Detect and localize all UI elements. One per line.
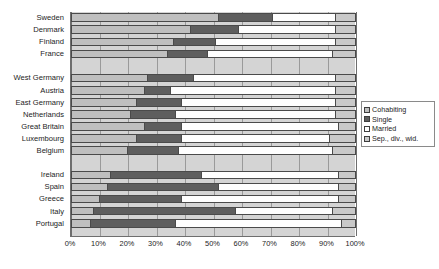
stacked-bar[interactable] bbox=[71, 207, 356, 216]
category-label: Portugal bbox=[0, 218, 68, 230]
bar-segment[interactable] bbox=[176, 110, 336, 119]
legend-item[interactable]: Single bbox=[364, 115, 431, 125]
bar-segment[interactable] bbox=[182, 122, 339, 131]
bar-segment[interactable] bbox=[182, 195, 339, 204]
stacked-bar[interactable] bbox=[71, 171, 356, 180]
bar-segment[interactable] bbox=[174, 38, 217, 47]
bar-segment[interactable] bbox=[236, 207, 333, 216]
stacked-bar[interactable] bbox=[71, 13, 356, 22]
bar-segment[interactable] bbox=[182, 134, 330, 143]
stacked-bar[interactable] bbox=[71, 110, 356, 119]
bar-segment[interactable] bbox=[71, 146, 128, 155]
stacked-bar[interactable] bbox=[71, 134, 356, 143]
stacked-bar[interactable] bbox=[71, 86, 356, 95]
bar-segment[interactable] bbox=[71, 110, 131, 119]
bar-segment[interactable] bbox=[336, 38, 356, 47]
bar-segment[interactable] bbox=[91, 219, 177, 228]
category-label: Sweden bbox=[0, 12, 68, 24]
bar-segment[interactable] bbox=[339, 195, 356, 204]
category-label: France bbox=[0, 48, 68, 60]
bar-segment[interactable] bbox=[71, 134, 137, 143]
bar-segment[interactable] bbox=[336, 25, 356, 34]
bar-segment[interactable] bbox=[330, 134, 356, 143]
bar-segment[interactable] bbox=[339, 171, 356, 180]
bar-segment[interactable] bbox=[94, 207, 237, 216]
bar-segment[interactable] bbox=[131, 110, 177, 119]
bar-segment[interactable] bbox=[71, 98, 137, 107]
category-label: Ireland bbox=[0, 169, 68, 181]
bar-segment[interactable] bbox=[71, 38, 174, 47]
stacked-bar[interactable] bbox=[71, 50, 356, 59]
bar-segment[interactable] bbox=[137, 134, 183, 143]
bar-segment[interactable] bbox=[171, 86, 336, 95]
bar-segment[interactable] bbox=[342, 219, 356, 228]
bar-segment[interactable] bbox=[137, 98, 183, 107]
bar-segment[interactable] bbox=[339, 122, 356, 131]
bar-segment[interactable] bbox=[179, 146, 333, 155]
bar-segment[interactable] bbox=[339, 183, 356, 192]
bar-segment[interactable] bbox=[182, 98, 336, 107]
stacked-bar[interactable] bbox=[71, 219, 356, 228]
stacked-bar[interactable] bbox=[71, 146, 356, 155]
bar-segment[interactable] bbox=[202, 171, 339, 180]
bar-segment[interactable] bbox=[128, 146, 179, 155]
bar-segment[interactable] bbox=[71, 171, 111, 180]
stacked-bar[interactable] bbox=[71, 195, 356, 204]
bar-row bbox=[71, 121, 355, 133]
bar-row bbox=[71, 181, 355, 193]
bar-segment[interactable] bbox=[145, 122, 182, 131]
bar-segment[interactable] bbox=[71, 50, 168, 59]
bar-segment[interactable] bbox=[219, 13, 273, 22]
bar-segment[interactable] bbox=[71, 86, 145, 95]
bar-row-spacer bbox=[71, 60, 355, 72]
bar-segment[interactable] bbox=[71, 207, 94, 216]
category-label: Denmark bbox=[0, 24, 68, 36]
bar-segment[interactable] bbox=[71, 219, 91, 228]
bar-segment[interactable] bbox=[71, 13, 219, 22]
bar-segment[interactable] bbox=[336, 74, 356, 83]
bar-segment[interactable] bbox=[333, 50, 356, 59]
bar-row bbox=[71, 48, 355, 60]
bar-segment[interactable] bbox=[71, 25, 191, 34]
stacked-bar[interactable] bbox=[71, 25, 356, 34]
bar-segment[interactable] bbox=[71, 183, 108, 192]
bar-series-container bbox=[71, 12, 355, 236]
stacked-bar[interactable] bbox=[71, 122, 356, 131]
value-tick-label: 100% bbox=[346, 239, 365, 248]
bar-segment[interactable] bbox=[176, 219, 341, 228]
bar-segment[interactable] bbox=[71, 122, 145, 131]
bar-segment[interactable] bbox=[219, 183, 339, 192]
legend-item[interactable]: Cohabiting bbox=[364, 105, 431, 115]
category-label: Luxembourg bbox=[0, 133, 68, 145]
bar-segment[interactable] bbox=[216, 38, 336, 47]
stacked-bar[interactable] bbox=[71, 74, 356, 83]
bar-segment[interactable] bbox=[273, 13, 336, 22]
bar-row bbox=[71, 145, 355, 157]
bar-segment[interactable] bbox=[71, 74, 148, 83]
legend-label: Single bbox=[372, 115, 392, 124]
stacked-bar[interactable] bbox=[71, 98, 356, 107]
bar-segment[interactable] bbox=[145, 86, 171, 95]
bar-segment[interactable] bbox=[100, 195, 183, 204]
stacked-bar[interactable] bbox=[71, 183, 356, 192]
bar-segment[interactable] bbox=[336, 13, 356, 22]
legend-item[interactable]: Married bbox=[364, 124, 431, 134]
bar-segment[interactable] bbox=[191, 25, 239, 34]
bar-segment[interactable] bbox=[333, 146, 356, 155]
bar-segment[interactable] bbox=[208, 50, 333, 59]
bar-segment[interactable] bbox=[148, 74, 194, 83]
category-label-spacer bbox=[0, 157, 68, 169]
bar-segment[interactable] bbox=[336, 86, 356, 95]
bar-segment[interactable] bbox=[108, 183, 219, 192]
bar-segment[interactable] bbox=[336, 110, 356, 119]
bar-row bbox=[71, 97, 355, 109]
bar-segment[interactable] bbox=[336, 98, 356, 107]
bar-segment[interactable] bbox=[111, 171, 202, 180]
legend-item[interactable]: Sep., div., wid. bbox=[364, 134, 431, 144]
stacked-bar[interactable] bbox=[71, 38, 356, 47]
bar-segment[interactable] bbox=[333, 207, 356, 216]
bar-segment[interactable] bbox=[71, 195, 100, 204]
bar-segment[interactable] bbox=[239, 25, 336, 34]
bar-segment[interactable] bbox=[168, 50, 208, 59]
bar-segment[interactable] bbox=[194, 74, 337, 83]
